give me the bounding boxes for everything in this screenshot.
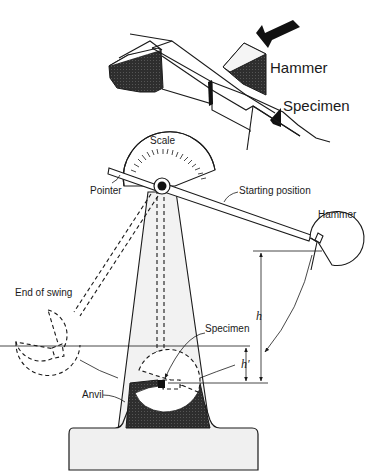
hammer-label: Hammer bbox=[318, 209, 357, 220]
impact-arrow-icon bbox=[256, 20, 300, 48]
scale-label: Scale bbox=[150, 135, 175, 146]
inset-specimen-label: Specimen bbox=[283, 97, 350, 114]
anvil-label: Anvil bbox=[82, 389, 104, 400]
hammer-end-of-swing: End of swing bbox=[15, 287, 118, 378]
swing-arc-arrow bbox=[265, 255, 312, 352]
h-prime-label: h′ bbox=[241, 357, 250, 371]
hammer-starting: Hammer bbox=[310, 209, 364, 270]
h-label: h bbox=[256, 309, 262, 323]
pointer-label: Pointer bbox=[90, 185, 122, 196]
specimen bbox=[158, 380, 165, 388]
specimen-label: Specimen bbox=[205, 323, 249, 334]
starting-position-label: Starting position bbox=[239, 185, 311, 196]
inset-specimen-view: Hammer Specimen bbox=[109, 20, 350, 150]
inset-hammer-label: Hammer bbox=[270, 59, 328, 76]
end-of-swing-label: End of swing bbox=[15, 287, 72, 298]
charpy-impact-diagram: Hammer Specimen bbox=[0, 0, 389, 473]
